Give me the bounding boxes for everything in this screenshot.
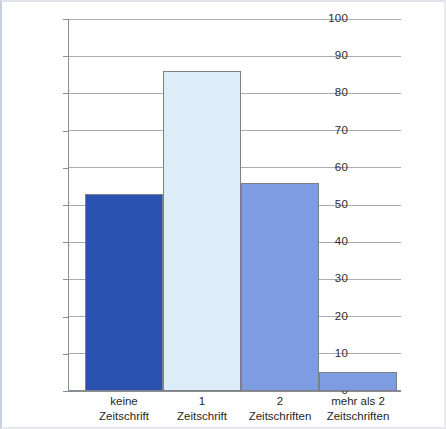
bar-1[interactable] [85, 194, 163, 391]
x-axis-label-line2: Zeitschriften [235, 409, 325, 424]
x-axis-label-line1: keine [79, 394, 169, 409]
x-axis-label-3: 2Zeitschriften [235, 394, 325, 424]
x-axis-label-1: keineZeitschrift [79, 394, 169, 424]
bar-2[interactable] [163, 71, 241, 391]
x-axis-label-line1: 2 [235, 394, 325, 409]
x-axis-label-4: mehr als 2Zeitschriften [313, 394, 403, 424]
x-axis-label-2: 1Zeitschrift [157, 394, 247, 424]
x-axis-label-line2: Zeitschrift [79, 409, 169, 424]
bar-chart-figure: 0102030405060708090100 keineZeitschrift1… [0, 0, 446, 429]
y-tick-0 [63, 391, 69, 392]
bar-4[interactable] [319, 372, 397, 391]
x-axis-label-line2: Zeitschriften [313, 409, 403, 424]
x-axis-label-line1: 1 [157, 394, 247, 409]
bar-3[interactable] [241, 183, 319, 391]
x-axis-labels: keineZeitschrift1Zeitschrift2Zeitschrift… [68, 394, 400, 428]
bars-layer [68, 19, 400, 391]
x-axis-label-line1: mehr als 2 [313, 394, 403, 409]
x-axis-label-line2: Zeitschrift [157, 409, 247, 424]
